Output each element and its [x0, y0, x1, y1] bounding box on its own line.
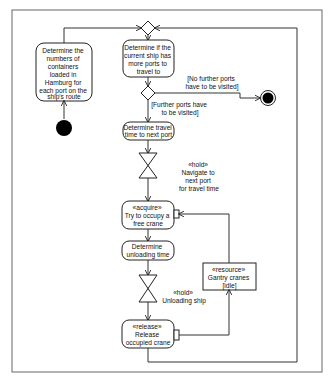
release-output-pin: [174, 330, 179, 340]
hold-unload-label: «hold» Unloading ship: [162, 289, 206, 305]
merge-node: [141, 21, 155, 35]
hold-unload-hourglass-icon: [139, 275, 157, 302]
activity-travel-time-label: Determine travel time to next port: [123, 124, 173, 139]
final-node: [263, 93, 274, 104]
hold-navigate-hourglass-icon: [139, 153, 157, 178]
activity-diagram: Determine if the current ship has more p…: [0, 0, 331, 383]
guard-no-further-ports: [No further ports have to be visited]: [185, 75, 238, 91]
decision-node: [141, 86, 155, 100]
initial-node: [56, 120, 72, 136]
activity-unloading-time-label: Determine unloading time: [127, 243, 170, 259]
acquire-input-pin: [174, 210, 179, 218]
edge-decision-to-final: [155, 93, 260, 98]
edge-resource-to-acquire: [179, 214, 229, 263]
guard-further-ports: [Further ports have to be visited]: [151, 101, 209, 117]
hold-navigate-label: «hold» Navigate to next port for travel …: [179, 161, 219, 192]
